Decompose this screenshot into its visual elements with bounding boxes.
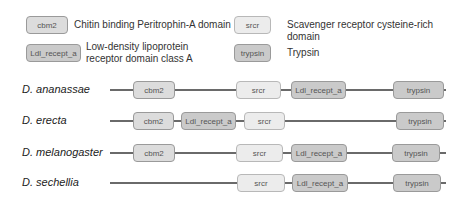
domain-trypsin: trypsin [396,112,444,130]
domain-trypsin: trypsin [392,144,440,162]
domain-ldl-recept-a: Ldl_recept_a [291,81,346,99]
domain-trypsin: trypsin [393,174,441,192]
domain-ldl-recept-a: Ldl_recept_a [292,174,348,192]
species-label-sechellia: D. sechellia [22,176,79,188]
domain-trypsin: trypsin [393,81,444,99]
domain-cbm2: cbm2 [133,144,175,162]
legend-ldl-box: Ldl_recept_a [26,44,81,62]
legend-srcr-text: Scavenger receptor cysteine-rich domain [287,19,468,43]
species-label-melanogaster: D. melanogaster [22,146,103,158]
domain-srcr: srcr [236,144,283,162]
legend-ldl-text-line2: receptor domain class A [86,53,193,65]
legend-trypsin-box: trypsin [234,44,271,62]
domain-cbm2: cbm2 [133,112,174,130]
domain-srcr: srcr [237,174,285,192]
legend-cbm2-box: cbm2 [26,16,68,34]
domain-srcr: srcr [236,81,281,99]
legend-trypsin-text: Trypsin [287,47,319,59]
legend-srcr-box: srcr [234,16,271,34]
species-label-ananassae: D. ananassae [22,83,90,95]
domain-ldl-recept-a: Ldl_recept_a [181,112,236,130]
species-label-erecta: D. erecta [22,114,67,126]
legend-cbm2-text: Chitin binding Peritrophin-A domain [74,19,231,31]
domain-srcr: srcr [244,112,285,130]
domain-cbm2: cbm2 [133,81,175,99]
domain-ldl-recept-a: Ldl_recept_a [291,144,347,162]
legend-ldl-text: Low-density lipoprotein receptor domain … [86,41,193,65]
legend-ldl-text-line1: Low-density lipoprotein [86,41,193,53]
